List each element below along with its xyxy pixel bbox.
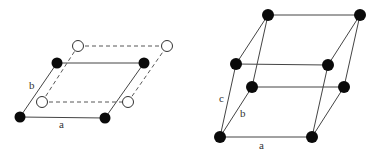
lattice-diagram-canvas: b a c b a bbox=[0, 0, 381, 164]
atom bbox=[214, 131, 226, 143]
open-atom bbox=[162, 41, 173, 52]
open-atom bbox=[37, 97, 48, 108]
filled-atom bbox=[52, 58, 63, 69]
atom bbox=[338, 81, 350, 93]
atom bbox=[246, 81, 258, 93]
figure-2d-lattice bbox=[15, 41, 173, 124]
label-a-3d: a bbox=[259, 140, 264, 151]
atom bbox=[306, 131, 318, 143]
solid-cell bbox=[20, 63, 144, 118]
open-atom bbox=[73, 41, 84, 52]
atom bbox=[230, 58, 242, 70]
label-a-2d: a bbox=[59, 119, 64, 130]
lattice-diagram-svg bbox=[0, 0, 381, 164]
label-b-3d: b bbox=[240, 108, 246, 119]
atom bbox=[354, 9, 366, 21]
open-atoms bbox=[37, 41, 173, 108]
filled-atom bbox=[15, 112, 26, 123]
atom bbox=[262, 9, 274, 21]
open-atom bbox=[123, 97, 134, 108]
label-c-3d: c bbox=[219, 93, 224, 104]
label-b-2d: b bbox=[29, 80, 35, 91]
dashed-cell bbox=[42, 46, 167, 102]
atom bbox=[322, 59, 334, 71]
filled-atom bbox=[139, 58, 150, 69]
3d-atoms bbox=[214, 9, 366, 143]
filled-atom bbox=[100, 113, 111, 124]
